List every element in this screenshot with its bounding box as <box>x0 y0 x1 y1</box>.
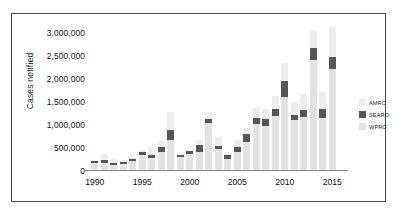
bar-segment-searo <box>272 109 279 116</box>
bar-segment-amro <box>319 92 326 109</box>
bar-segment-wpro <box>139 155 146 170</box>
bar-segment-searo <box>329 57 336 69</box>
bar-segment-searo <box>281 81 288 97</box>
bar-segment-searo <box>262 119 269 126</box>
bar-segment-searo <box>243 134 250 143</box>
bar-segment-amro <box>215 137 222 146</box>
bar-2002 <box>205 113 212 170</box>
bar-segment-wpro <box>234 152 241 170</box>
bar-segment-wpro <box>148 158 155 170</box>
bar-segment-wpro <box>177 157 184 170</box>
bar-segment-wpro <box>281 97 288 170</box>
chart-figure: Cases notified 0500,0001,000,0001,500,00… <box>11 13 386 202</box>
bar-segment-amro <box>300 94 307 110</box>
bar-segment-amro <box>253 108 260 119</box>
bar-2008 <box>262 109 269 170</box>
bar-segment-wpro <box>129 161 136 170</box>
y-tick-label: 2,000,000 <box>47 74 85 84</box>
bar-2014 <box>319 92 326 170</box>
bar-2005 <box>234 140 241 170</box>
y-tick-label: 3,000,000 <box>47 28 85 38</box>
bar-segment-wpro <box>186 154 193 170</box>
bar-segment-wpro <box>224 159 231 170</box>
x-tick-label: 2010 <box>275 177 294 187</box>
bar-2001 <box>196 140 203 170</box>
bar-segment-amro <box>272 96 279 108</box>
x-tick-label: 2015 <box>323 177 342 187</box>
x-tick-label: 1990 <box>85 177 104 187</box>
bar-1991 <box>101 154 108 170</box>
bar-segment-wpro <box>310 60 317 170</box>
bar-segment-wpro <box>91 163 98 170</box>
bar-2012 <box>300 94 307 170</box>
bar-segment-amro <box>234 140 241 147</box>
bar-2006 <box>243 128 250 170</box>
bar-segment-wpro <box>253 124 260 170</box>
legend-item-wpro: WPRO <box>359 121 397 132</box>
bar-1990 <box>91 160 98 170</box>
bar-segment-wpro <box>329 69 336 170</box>
bar-segment-wpro <box>291 120 298 170</box>
bar-segment-amro <box>262 109 269 119</box>
bar-segment-amro <box>148 148 155 155</box>
x-tick-label: 2000 <box>180 177 199 187</box>
bar-1993 <box>120 161 127 170</box>
bar-segment-amro <box>310 31 317 48</box>
chart-legend: AMROSEAROWPRO <box>359 97 397 133</box>
x-tick-label: 2005 <box>228 177 247 187</box>
legend-label: SEARO <box>369 112 389 118</box>
legend-label: WPRO <box>369 124 387 130</box>
bar-segment-wpro <box>167 140 174 170</box>
bar-1999 <box>177 155 184 170</box>
bar-segment-searo <box>196 145 203 152</box>
bar-segment-wpro <box>196 152 203 170</box>
bar-2010 <box>281 63 288 170</box>
bar-segment-searo <box>300 110 307 117</box>
bar-segment-wpro <box>120 164 127 170</box>
plot-area: 0500,0001,000,0001,500,0002,000,0002,500… <box>90 28 337 171</box>
bar-2009 <box>272 96 279 170</box>
bar-1992 <box>110 159 117 170</box>
y-tick-label: 1,500,000 <box>47 97 85 107</box>
bar-2007 <box>253 108 260 170</box>
bar-segment-amro <box>329 27 336 57</box>
bar-segment-wpro <box>158 152 165 170</box>
legend-swatch-amro <box>359 99 366 106</box>
bar-2015 <box>329 27 336 170</box>
bar-segment-wpro <box>110 165 117 170</box>
bar-1997 <box>158 141 165 170</box>
bar-segment-searo <box>310 48 317 60</box>
y-axis-label: Cases notified <box>25 31 35 131</box>
legend-swatch-wpro <box>359 123 366 130</box>
y-tick-label: 2,500,000 <box>47 51 85 61</box>
bar-2000 <box>186 150 193 170</box>
y-tick-label: 500,000 <box>54 143 85 153</box>
bar-2004 <box>224 154 231 170</box>
bar-1998 <box>167 112 174 170</box>
bar-segment-wpro <box>319 118 326 170</box>
bar-segment-amro <box>291 102 298 115</box>
bar-segment-searo <box>167 130 174 140</box>
bar-1995 <box>139 150 146 170</box>
bar-1994 <box>129 158 136 170</box>
legend-item-searo: SEARO <box>359 109 397 120</box>
bar-segment-wpro <box>272 116 279 170</box>
bar-2013 <box>310 31 317 170</box>
bar-segment-wpro <box>101 163 108 170</box>
bar-segment-searo <box>319 109 326 118</box>
bar-2003 <box>215 137 222 170</box>
bar-2011 <box>291 102 298 170</box>
bar-segment-amro <box>281 63 288 81</box>
legend-swatch-searo <box>359 111 366 118</box>
y-tick-label: 0 <box>80 166 85 176</box>
bar-segment-wpro <box>262 126 269 170</box>
legend-item-amro: AMRO <box>359 97 397 108</box>
bar-segment-wpro <box>300 117 307 170</box>
y-tick-label: 1,000,000 <box>47 120 85 130</box>
bar-segment-wpro <box>243 142 250 170</box>
x-axis-line <box>84 170 348 171</box>
legend-label: AMRO <box>369 100 386 106</box>
bar-segment-wpro <box>205 123 212 170</box>
x-tick-label: 1995 <box>133 177 152 187</box>
bar-segment-wpro <box>215 149 222 170</box>
